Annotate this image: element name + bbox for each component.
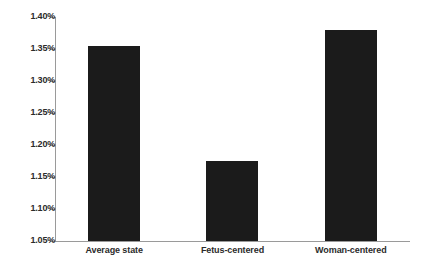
y-axis-tick-label: 1.20% — [9, 140, 55, 149]
bar-group — [292, 17, 410, 241]
bar — [325, 30, 377, 241]
y-axis-tick-label: 1.05% — [9, 236, 55, 245]
x-axis-line — [55, 241, 410, 242]
y-axis-tick-label: 1.30% — [9, 76, 55, 85]
x-axis-category-label: Average state — [55, 245, 173, 255]
x-axis-category-label: Fetus-centered — [173, 245, 291, 255]
plot-area — [55, 17, 410, 241]
y-axis-tick-label: 1.25% — [9, 108, 55, 117]
y-axis-tick-label: 1.40% — [9, 12, 55, 21]
bar-group — [173, 17, 291, 241]
y-axis-tick-label: 1.35% — [9, 44, 55, 53]
x-axis-category-label: Woman-centered — [292, 245, 410, 255]
bar — [88, 46, 140, 241]
bar — [206, 161, 258, 241]
y-axis-tick-label: 1.15% — [9, 172, 55, 181]
y-axis-tick-label: 1.10% — [9, 204, 55, 213]
bar-chart: 1.40%1.35%1.30%1.25%1.20%1.15%1.10%1.05%… — [0, 0, 428, 269]
bar-group — [55, 17, 173, 241]
